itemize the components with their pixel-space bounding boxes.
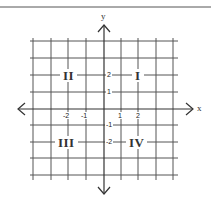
x-tick-label: 1 (117, 112, 123, 119)
y-tick-label: 2 (106, 71, 112, 78)
x-tick-label: -1 (80, 112, 88, 119)
y-axis-label: y (101, 12, 106, 21)
quadrant-label-ii: II (60, 69, 77, 82)
y-tick-label: -2 (105, 138, 113, 145)
x-axis-label: x (197, 104, 202, 113)
quadrant-label-i: I (132, 69, 144, 82)
quadrant-label-iii: III (55, 136, 78, 149)
grid-svg (0, 0, 215, 206)
x-tick-label: 2 (135, 112, 141, 119)
x-tick-label: -2 (62, 112, 70, 119)
x-axis (18, 103, 193, 115)
quadrant-label-iv: IV (126, 136, 147, 149)
y-tick-label: 1 (106, 88, 112, 95)
y-tick-label: -1 (105, 121, 113, 128)
coordinate-plane-diagram: y x -2 -1 1 2 2 1 -1 -2 II I III IV (0, 0, 215, 206)
